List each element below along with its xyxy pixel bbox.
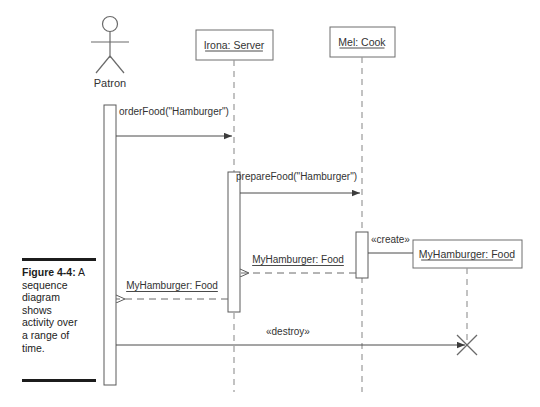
message-return-server-to-patron: MyHamburger: Food: [116, 280, 228, 299]
message-create-hamburger: «create»: [368, 234, 413, 253]
actor-head-icon: [103, 17, 118, 32]
lifeline-name-myhamburger: MyHamburger: Food: [419, 248, 515, 260]
activation-bar-cook-0: [356, 232, 368, 278]
message-label-destroy-hamburger: «destroy»: [266, 326, 310, 337]
lifeline-myhamburger: MyHamburger: Food: [413, 240, 522, 355]
actor-leg-left: [96, 56, 110, 73]
message-destroy-hamburger: «destroy»: [116, 326, 465, 345]
figure-caption-body: A sequencediagramshowsactivity overa ran…: [22, 266, 84, 354]
caption-rule-bottom: [22, 379, 96, 382]
message-prepare-food: prepareFood("Hamburger"): [236, 171, 360, 193]
caption-text: Figure 4-4: A sequencediagramshowsactivi…: [22, 261, 96, 354]
lifeline-name-server: Irona: Server: [204, 39, 265, 51]
actor-name-label: Patron: [94, 77, 126, 89]
lifeline-cook: Mel: Cook: [330, 27, 395, 392]
figure-caption: Figure 4-4: A sequencediagramshowsactivi…: [22, 258, 96, 354]
message-label-create-hamburger: «create»: [371, 234, 410, 245]
messages: orderFood("Hamburger")prepareFood("Hambu…: [116, 106, 465, 345]
lifeline-server: Irona: Server: [196, 30, 273, 392]
actor-patron: Patron: [91, 17, 129, 386]
actor-leg-right: [110, 56, 124, 73]
actor-activation-bar: [104, 105, 116, 385]
message-return-cook-to-server: MyHamburger: Food: [240, 254, 356, 273]
activation-bar-server-0: [228, 172, 240, 312]
lifeline-name-cook: Mel: Cook: [338, 36, 386, 48]
figure-number: Figure 4-4:: [22, 266, 76, 278]
message-label-return-server-to-patron: MyHamburger: Food: [126, 280, 218, 291]
message-order-food: orderFood("Hamburger"): [116, 106, 232, 136]
figure-sequence-diagram: Patron Irona: ServerMel: CookMyHamburger…: [0, 0, 540, 407]
message-label-return-cook-to-server: MyHamburger: Food: [252, 254, 344, 265]
message-label-prepare-food: prepareFood("Hamburger"): [236, 171, 357, 182]
message-label-order-food: orderFood("Hamburger"): [119, 106, 229, 117]
lifelines: Irona: ServerMel: CookMyHamburger: Food: [196, 27, 522, 392]
